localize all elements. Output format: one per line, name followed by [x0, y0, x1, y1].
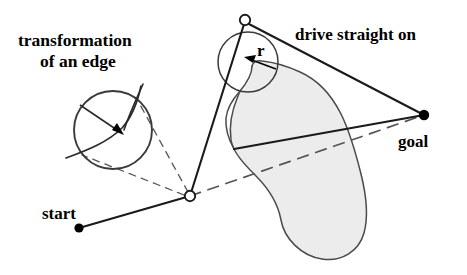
obstacle-region: [230, 61, 366, 260]
label-drive-straight-on: drive straight on: [295, 25, 416, 44]
path-start-to-junction: [79, 196, 190, 228]
node-goal-point[interactable]: [419, 110, 429, 120]
label-transformation-line1: transformation: [18, 30, 132, 50]
diagram-canvas: transformation of an edge drive straight…: [0, 0, 467, 275]
node-turn-point[interactable]: [240, 15, 250, 25]
label-goal: goal: [398, 132, 429, 151]
node-junction[interactable]: [185, 191, 195, 201]
dashed-tangent-upper: [138, 101, 188, 192]
diagram-svg: transformation of an edge drive straight…: [0, 0, 467, 275]
dashed-tangent-lower: [82, 155, 184, 195]
label-start: start: [42, 204, 76, 223]
label-transformation-line2: of an edge: [40, 51, 116, 71]
label-radius-r: r: [257, 41, 265, 60]
edge-radius-arrow: [80, 105, 124, 135]
node-start-point[interactable]: [74, 223, 83, 232]
transformation-leader-line: [124, 84, 143, 130]
